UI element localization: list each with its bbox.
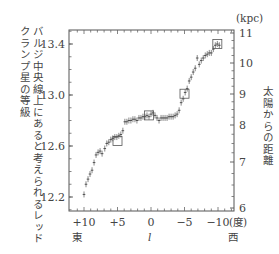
x-axis-label: l (148, 231, 151, 243)
highlight-box (180, 89, 189, 98)
y-tick-label-right: 8 (239, 119, 246, 132)
y-tick-label-right: 10 (239, 57, 253, 70)
x-tick-label: +10 (72, 216, 95, 229)
left-ylabel-line1: バルジ中央線上にあると考えられるレッド (31, 26, 43, 245)
x-tick-label: −10 (206, 216, 229, 229)
y-tick-label-right: 7 (239, 156, 246, 169)
y-tick-label-right: 11 (239, 27, 253, 40)
right-y-unit: (kpc) (236, 12, 263, 24)
y-tick-label-left: 13.4 (41, 38, 66, 51)
y-tick-label-left: 12.2 (41, 191, 66, 204)
right-ylabel: 太陽からの距離 (261, 86, 273, 167)
plot-frame (69, 30, 234, 211)
left-ylabel-line2: クランプ星の等級 (18, 26, 30, 118)
y-tick-label-left: 13.0 (41, 89, 66, 102)
highlight-box (113, 136, 122, 145)
x-unit: (度) (229, 214, 247, 229)
y-tick-label-right: 9 (239, 88, 246, 101)
x-direction-west: 西 (228, 229, 238, 244)
x-tick-label: −5 (176, 216, 192, 229)
x-tick-label: 0 (148, 216, 155, 229)
x-tick-label: +5 (109, 216, 125, 229)
x-direction-east: 東 (72, 229, 82, 244)
y-tick-label-left: 12.6 (41, 140, 66, 153)
